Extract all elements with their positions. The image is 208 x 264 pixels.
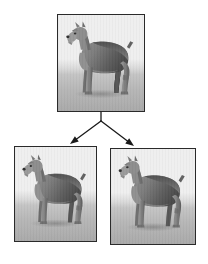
panel-background-child-right: [111, 149, 195, 244]
edge-parent-to-child-left: [70, 121, 101, 144]
node-child-left-image-panel[interactable]: [14, 146, 97, 242]
node-child-right-image-panel[interactable]: [110, 148, 196, 245]
panel-background-parent: [58, 15, 144, 111]
edge-parent-to-child-right: [101, 121, 134, 146]
dog-figure-child-right: [115, 155, 191, 238]
dog-figure-child-left: [19, 153, 92, 235]
tree-diagram: [0, 0, 208, 264]
node-parent-image-panel[interactable]: [57, 14, 145, 112]
panel-background-child-left: [15, 147, 96, 241]
arrow-down-right-icon: [125, 138, 134, 146]
dog-figure-parent: [62, 21, 140, 105]
arrow-down-left-icon: [70, 136, 79, 144]
